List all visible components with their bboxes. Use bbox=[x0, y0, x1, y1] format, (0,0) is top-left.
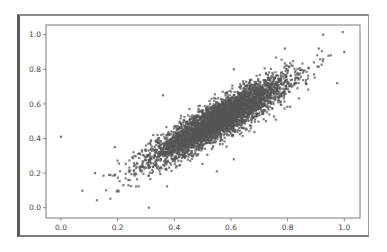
y-tick-label: 0.4 bbox=[29, 134, 41, 143]
y-tick-label: 0.6 bbox=[29, 100, 41, 109]
scatter-chart: 0.00.20.40.60.81.0 0.00.20.40.60.81.0 bbox=[0, 0, 387, 252]
x-tick-label: 0.0 bbox=[55, 223, 67, 232]
y-tick-label: 0.2 bbox=[29, 169, 41, 178]
x-tick-label: 1.0 bbox=[338, 223, 350, 232]
y-tick-label: 0.8 bbox=[29, 65, 41, 74]
y-tick-label: 0.0 bbox=[29, 203, 41, 212]
x-tick-label: 0.6 bbox=[225, 223, 237, 232]
x-axis: 0.00.20.40.60.81.0 bbox=[55, 218, 350, 232]
x-tick-label: 0.4 bbox=[168, 223, 180, 232]
x-tick-label: 0.2 bbox=[112, 223, 124, 232]
x-tick-label: 0.8 bbox=[282, 223, 294, 232]
y-axis: 0.00.20.40.60.81.0 bbox=[29, 30, 46, 212]
y-tick-label: 1.0 bbox=[29, 30, 41, 39]
